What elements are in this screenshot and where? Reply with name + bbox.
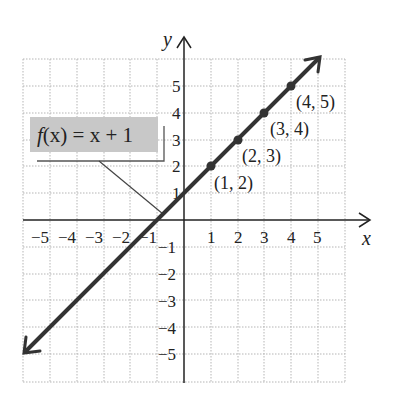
svg-text:(2, 3): (2, 3): [242, 146, 281, 167]
callout-label-rest: (x) = x + 1: [43, 123, 133, 147]
svg-text:−1: −1: [158, 238, 176, 257]
svg-text:−2: −2: [112, 228, 130, 247]
point-3-4: [260, 109, 269, 118]
svg-text:2: 2: [172, 157, 181, 176]
svg-text:5: 5: [313, 228, 322, 247]
svg-text:3: 3: [172, 131, 181, 150]
svg-text:3: 3: [260, 228, 269, 247]
svg-text:−2: −2: [158, 265, 176, 284]
point-2-3: [234, 136, 243, 145]
svg-text:5: 5: [172, 77, 181, 96]
chart: f(x) = x + 1 x y −5 −4 −3 −2 −1 1 2 3 4 …: [0, 0, 398, 408]
x-tick-labels: −5 −4 −3 −2 −1 1 2 3 4 5: [31, 228, 322, 247]
callout-leader-line: [99, 161, 163, 214]
svg-text:−3: −3: [158, 292, 176, 311]
svg-text:−4: −4: [58, 228, 77, 247]
svg-text:−5: −5: [158, 345, 176, 364]
svg-text:−5: −5: [31, 228, 49, 247]
svg-text:(3, 4): (3, 4): [270, 119, 309, 140]
y-axis-label: y: [161, 28, 172, 51]
svg-text:4: 4: [287, 228, 296, 247]
svg-text:1: 1: [207, 228, 216, 247]
point-4-5: [287, 82, 296, 91]
svg-text:−3: −3: [85, 228, 103, 247]
callout-label: f(x) = x + 1: [37, 123, 133, 147]
svg-text:2: 2: [234, 228, 243, 247]
svg-text:4: 4: [172, 104, 181, 123]
svg-text:(1, 2): (1, 2): [214, 173, 253, 194]
svg-text:−4: −4: [158, 319, 177, 338]
svg-text:(4, 5): (4, 5): [296, 92, 335, 113]
x-axis-label: x: [361, 227, 371, 249]
point-1-2: [207, 162, 216, 171]
